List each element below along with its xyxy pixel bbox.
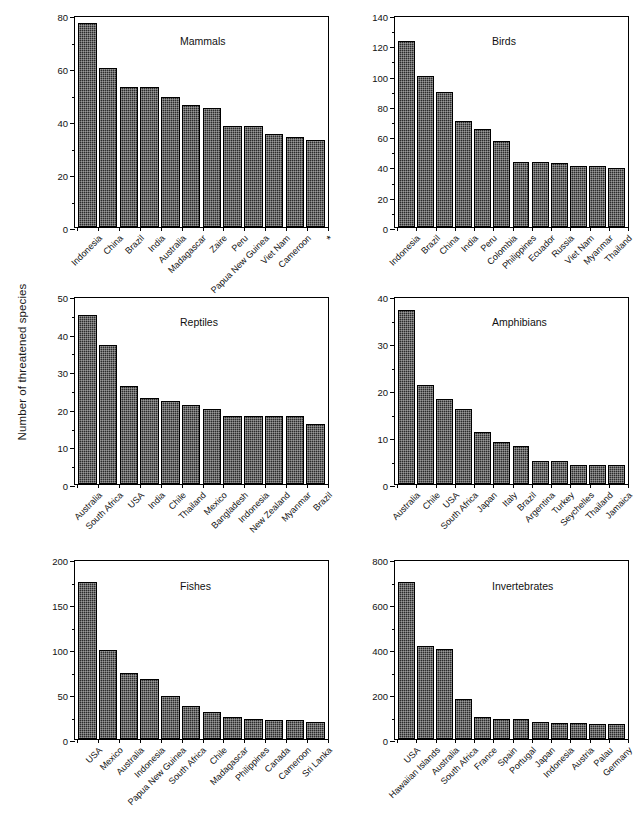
bar[interactable] <box>513 719 530 739</box>
bar[interactable] <box>455 409 472 484</box>
x-tick-invertebrates <box>628 739 629 743</box>
bar[interactable] <box>493 141 510 227</box>
bar[interactable] <box>513 162 530 227</box>
bar[interactable] <box>570 465 587 484</box>
bar[interactable] <box>203 409 222 484</box>
bar[interactable] <box>551 461 568 485</box>
y-tick-label-reptiles: 20 <box>57 405 68 416</box>
bar[interactable] <box>120 386 139 484</box>
bar[interactable] <box>161 696 180 739</box>
bar[interactable] <box>244 126 263 227</box>
bar[interactable] <box>608 168 625 227</box>
chart-title-mammals: Mammals <box>180 35 226 47</box>
y-tick-label-mammals: 60 <box>57 65 68 76</box>
bar[interactable] <box>182 105 201 227</box>
bar[interactable] <box>436 399 453 484</box>
bar[interactable] <box>436 92 453 227</box>
bar[interactable] <box>455 121 472 227</box>
bar[interactable] <box>417 76 434 227</box>
bar[interactable] <box>532 162 549 227</box>
bar[interactable] <box>265 134 284 227</box>
bar[interactable] <box>474 717 491 740</box>
bar[interactable] <box>532 722 549 739</box>
bar[interactable] <box>78 315 97 484</box>
bar[interactable] <box>589 465 606 484</box>
bar[interactable] <box>398 41 415 227</box>
bar[interactable] <box>589 724 606 739</box>
bar[interactable] <box>306 424 325 484</box>
bar[interactable] <box>417 646 434 739</box>
x-axis-labels-birds: IndonesiaBrazilChinaIndiaPeruColombiaPhi… <box>395 227 628 297</box>
y-tick-label-fishes: 100 <box>52 646 68 657</box>
bar[interactable] <box>589 166 606 227</box>
bar[interactable] <box>78 582 97 740</box>
bar[interactable] <box>286 720 305 739</box>
y-tick-label-amphibians: 40 <box>377 293 388 304</box>
x-axis-label: Zaire <box>208 233 230 255</box>
bar[interactable] <box>223 416 242 484</box>
bar[interactable] <box>244 719 263 739</box>
bar[interactable] <box>493 442 510 484</box>
bar[interactable] <box>182 405 201 484</box>
bar[interactable] <box>306 140 325 227</box>
y-tick-label-fishes: 0 <box>63 736 68 747</box>
bar[interactable] <box>474 432 491 484</box>
bar[interactable] <box>140 87 159 227</box>
bar[interactable] <box>493 719 510 739</box>
x-axis-label: Japan <box>475 490 499 514</box>
y-tick-label-mammals: 80 <box>57 12 68 23</box>
bar[interactable] <box>551 163 568 227</box>
y-tick-label-fishes: 200 <box>52 556 68 567</box>
y-tick-label-birds: 120 <box>372 42 388 53</box>
x-axis-label: USA <box>126 490 146 510</box>
bar[interactable] <box>513 446 530 484</box>
bar[interactable] <box>286 137 305 227</box>
chart-title-amphibians: Amphibians <box>492 316 547 328</box>
bar[interactable] <box>78 23 97 227</box>
x-axis-label: China <box>437 233 461 257</box>
y-tick-label-amphibians: 10 <box>377 434 388 445</box>
y-tick-label-birds: 0 <box>383 224 388 235</box>
bar[interactable] <box>99 650 118 739</box>
bar[interactable] <box>570 723 587 739</box>
bar[interactable] <box>608 724 625 739</box>
chart-panel-birds: 020406080100120140IndonesiaBrazilChinaIn… <box>394 16 629 228</box>
bar[interactable] <box>436 649 453 739</box>
bar[interactable] <box>99 68 118 227</box>
bar[interactable] <box>455 699 472 740</box>
bar[interactable] <box>398 582 415 740</box>
bar[interactable] <box>182 706 201 739</box>
bar[interactable] <box>608 465 625 484</box>
bar[interactable] <box>223 126 242 227</box>
y-tick-label-birds: 100 <box>372 72 388 83</box>
bar[interactable] <box>161 401 180 484</box>
bar[interactable] <box>474 129 491 227</box>
bar[interactable] <box>140 398 159 484</box>
bar[interactable] <box>551 723 568 739</box>
bar[interactable] <box>120 87 139 227</box>
x-tick-fishes <box>328 739 329 743</box>
bar[interactable] <box>417 385 434 484</box>
y-tick-label-reptiles: 40 <box>57 330 68 341</box>
bar[interactable] <box>306 722 325 739</box>
bar-series-mammals <box>75 17 328 227</box>
chart-title-reptiles: Reptiles <box>180 316 218 328</box>
bar[interactable] <box>161 97 180 227</box>
bar[interactable] <box>120 673 139 739</box>
bar[interactable] <box>398 310 415 484</box>
x-axis-label: Brazil <box>311 490 334 513</box>
bar[interactable] <box>570 166 587 227</box>
bar[interactable] <box>140 679 159 739</box>
x-axis-label: Chile <box>420 490 442 512</box>
bar[interactable] <box>203 108 222 227</box>
bar[interactable] <box>265 416 284 484</box>
bar[interactable] <box>203 712 222 739</box>
bar[interactable] <box>265 720 284 739</box>
bar[interactable] <box>286 416 305 484</box>
bar[interactable] <box>223 717 242 739</box>
y-tick-label-fishes: 50 <box>57 691 68 702</box>
y-tick-label-invertebrates: 200 <box>372 691 388 702</box>
bar[interactable] <box>532 461 549 485</box>
bar[interactable] <box>99 345 118 484</box>
bar[interactable] <box>244 416 263 484</box>
